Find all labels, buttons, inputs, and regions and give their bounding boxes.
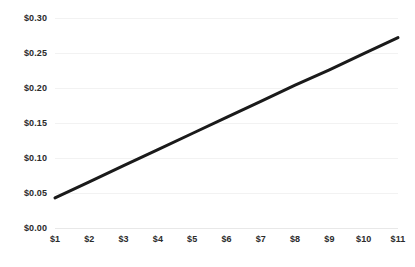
y-axis: $0.00$0.05$0.10$0.15$0.20$0.25$0.30 (0, 18, 47, 228)
x-tick-label: $2 (84, 234, 94, 244)
x-tick-label: $11 (391, 234, 406, 244)
y-tick-label: $0.00 (24, 223, 47, 233)
line-chart: $0.00$0.05$0.10$0.15$0.20$0.25$0.30 $1$2… (0, 0, 415, 267)
x-axis: $1$2$3$4$5$6$7$8$9$10$11 (55, 234, 398, 254)
y-tick-label: $0.15 (24, 118, 47, 128)
y-tick-label: $0.25 (24, 48, 47, 58)
x-tick-label: $4 (153, 234, 163, 244)
y-tick-label: $0.30 (24, 13, 47, 23)
gridline-y (55, 228, 398, 229)
series-line (55, 38, 398, 198)
y-tick-label: $0.20 (24, 83, 47, 93)
x-tick-label: $8 (290, 234, 300, 244)
x-tick-label: $5 (187, 234, 197, 244)
plot-area (55, 18, 398, 228)
series-line-layer (55, 18, 398, 228)
x-tick-label: $3 (118, 234, 128, 244)
x-tick-label: $10 (356, 234, 371, 244)
x-tick-label: $1 (50, 234, 60, 244)
x-tick-label: $7 (256, 234, 266, 244)
x-tick-label: $6 (221, 234, 231, 244)
y-tick-label: $0.05 (24, 188, 47, 198)
y-tick-label: $0.10 (24, 153, 47, 163)
x-tick-label: $9 (324, 234, 334, 244)
